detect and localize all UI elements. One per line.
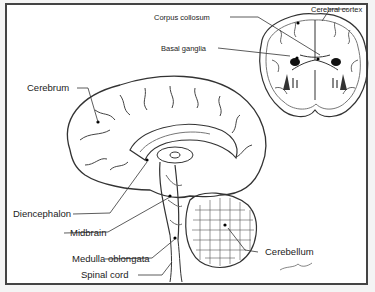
sagittal-section (67, 76, 265, 282)
label-corpus-collosum: Corpus collosum (154, 14, 210, 22)
label-cerebrum: Cerebrum (27, 83, 69, 93)
label-diencephalon: Diencephalon (13, 209, 71, 219)
coronal-section (260, 14, 368, 117)
label-basal-ganglia: Basal ganglia (161, 45, 206, 53)
label-midbrain: Midbrain (70, 228, 106, 238)
label-spinal-cord: Spinal cord (81, 270, 129, 280)
label-medulla-oblongata: Medulla oblongata (72, 254, 150, 264)
label-cerebral-cortex: Cerebral cortex (311, 6, 362, 14)
label-cerebellum: Cerebellum (265, 247, 314, 257)
artist-signature (280, 263, 312, 270)
